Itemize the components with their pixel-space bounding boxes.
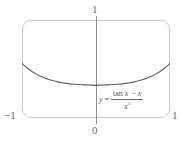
- equation-lhs: y: [99, 96, 103, 104]
- y-axis-max-label: 1: [92, 4, 98, 15]
- x-axis-max-label: 1: [172, 110, 178, 121]
- equation-annotation: y = tan x − x x3: [99, 90, 143, 111]
- tangent-function-name: tan: [113, 89, 123, 98]
- x-axis-min-label: −1: [4, 110, 16, 121]
- graph-figure: 1 0 −1 1 y = tan x − x x3: [0, 0, 183, 142]
- equation-denominator-exponent: 3: [128, 101, 131, 106]
- equation-equals-sign: =: [105, 96, 110, 104]
- equation-fraction: tan x − x x3: [111, 90, 143, 111]
- equation-numerator-rest: x − x: [123, 89, 142, 98]
- equation-numerator: tan x − x: [111, 90, 143, 100]
- curve-path: [22, 63, 170, 85]
- origin-label: 0: [92, 125, 98, 136]
- curve-plot: [22, 20, 170, 118]
- equation-denominator: x3: [122, 100, 132, 111]
